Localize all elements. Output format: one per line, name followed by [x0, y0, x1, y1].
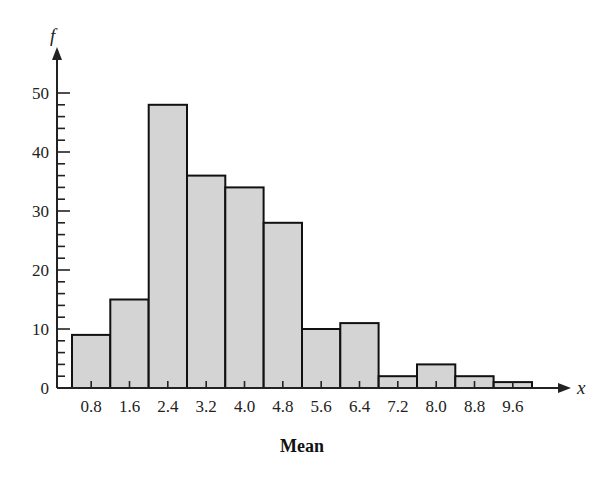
y-tick-label: 20: [32, 261, 49, 280]
x-tick-label: 9.6: [502, 397, 523, 416]
histogram-bar: [149, 105, 187, 388]
x-tick-label: 0.8: [81, 397, 102, 416]
x-tick-label: 6.4: [349, 397, 371, 416]
x-axis-variable: x: [576, 377, 586, 398]
x-tick-label: 4.0: [234, 397, 255, 416]
histogram-bar: [225, 187, 263, 388]
x-tick-label: 1.6: [119, 397, 140, 416]
x-tick-label: 5.6: [311, 397, 332, 416]
x-axis-title: Mean: [280, 436, 324, 456]
y-axis-variable: f: [50, 25, 58, 46]
y-axis-arrow-icon: [52, 47, 62, 60]
y-tick-label: 40: [32, 143, 49, 162]
histogram-bar: [302, 329, 340, 388]
bars-group: [72, 105, 532, 388]
x-tick-label: 2.4: [157, 397, 179, 416]
y-tick-label: 10: [32, 320, 49, 339]
y-tick-label: 0: [41, 379, 50, 398]
x-tick-label: 7.2: [387, 397, 408, 416]
x-axis-arrow-icon: [558, 383, 571, 393]
histogram-chart: 01020304050 0.81.62.43.24.04.85.66.47.28…: [0, 0, 604, 482]
histogram-bar: [110, 300, 148, 389]
x-tick-label: 8.0: [426, 397, 447, 416]
histogram-bar: [72, 335, 110, 388]
x-tick-label: 8.8: [464, 397, 485, 416]
x-tick-label: 4.8: [272, 397, 293, 416]
y-axis-ticks: 01020304050: [32, 84, 70, 398]
y-tick-label: 30: [32, 202, 49, 221]
y-tick-label: 50: [32, 84, 49, 103]
x-tick-label: 3.2: [196, 397, 217, 416]
histogram-bar: [187, 176, 225, 388]
histogram-bar: [340, 323, 378, 388]
histogram-bar: [264, 223, 302, 388]
